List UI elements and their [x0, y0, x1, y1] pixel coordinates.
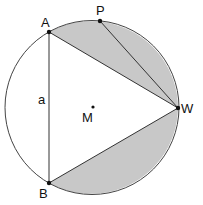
shaded-segment-aw [49, 21, 178, 108]
label-m: M [82, 110, 93, 125]
label-a: A [41, 15, 50, 30]
point-p [98, 19, 102, 23]
point-a [47, 30, 51, 34]
geometry-diagram: A P W B M a [0, 0, 203, 205]
label-b: B [39, 186, 48, 201]
label-w: W [181, 101, 194, 116]
point-b [47, 181, 51, 185]
shaded-segment-wb [49, 108, 178, 194]
point-w [176, 106, 180, 110]
label-p: P [96, 3, 105, 18]
label-side-a: a [38, 92, 46, 107]
point-m [91, 105, 94, 108]
